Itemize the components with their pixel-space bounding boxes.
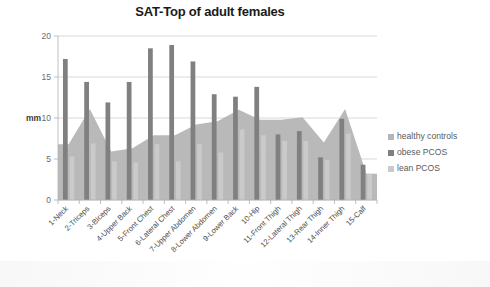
y-tick-label: 0 xyxy=(46,195,51,205)
bar-obese-pcos-6 xyxy=(191,61,196,200)
bar-lean-pcos-2 xyxy=(112,161,117,200)
bar-obese-pcos-12 xyxy=(318,157,323,200)
bar-obese-pcos-5 xyxy=(169,45,174,200)
bar-obese-pcos-7 xyxy=(212,94,217,200)
legend-label-0: healthy controls xyxy=(397,131,457,141)
bar-obese-pcos-9 xyxy=(254,87,259,200)
legend-label-2: lean PCOS xyxy=(397,163,440,173)
bar-obese-pcos-1 xyxy=(84,82,89,200)
bar-obese-pcos-4 xyxy=(148,48,153,200)
y-tick-label: 10 xyxy=(42,113,52,123)
bar-obese-pcos-10 xyxy=(276,134,281,200)
bar-obese-pcos-13 xyxy=(339,119,344,200)
y-tick-label: 15 xyxy=(42,72,52,82)
legend-label-1: obese PCOS xyxy=(397,147,447,157)
bar-lean-pcos-11 xyxy=(303,141,308,200)
chart-container: SAT-Top of adult females 051015201-Neck2… xyxy=(0,0,490,287)
chart-svg: 051015201-Neck2-Triceps3-Biceps4-Upper B… xyxy=(0,0,490,287)
legend-swatch-1 xyxy=(388,150,394,156)
legend-swatch-0 xyxy=(388,134,394,140)
bar-lean-pcos-8 xyxy=(240,129,245,200)
bar-obese-pcos-3 xyxy=(127,82,132,200)
bar-obese-pcos-14 xyxy=(361,165,366,200)
bar-lean-pcos-12 xyxy=(325,160,330,200)
bar-lean-pcos-4 xyxy=(155,144,160,200)
bar-lean-pcos-10 xyxy=(282,141,287,200)
bar-lean-pcos-13 xyxy=(346,134,351,200)
bar-obese-pcos-0 xyxy=(63,59,68,200)
chart-plot-area: 051015201-Neck2-Triceps3-Biceps4-Upper B… xyxy=(0,0,490,287)
bar-lean-pcos-14 xyxy=(367,174,372,200)
x-category-label-14: 15-Calf xyxy=(344,203,368,227)
y-tick-label: 20 xyxy=(42,31,52,41)
bar-lean-pcos-7 xyxy=(218,152,223,200)
bar-lean-pcos-1 xyxy=(91,143,96,200)
bar-lean-pcos-3 xyxy=(133,162,138,200)
bar-lean-pcos-5 xyxy=(176,161,181,200)
bar-lean-pcos-9 xyxy=(261,135,266,200)
bar-lean-pcos-0 xyxy=(70,157,75,200)
y-axis-title: mm xyxy=(26,113,42,123)
bar-obese-pcos-11 xyxy=(297,131,302,200)
y-tick-label: 5 xyxy=(46,154,51,164)
bar-obese-pcos-2 xyxy=(106,102,111,200)
bar-lean-pcos-6 xyxy=(197,144,202,200)
bar-obese-pcos-8 xyxy=(233,97,238,200)
legend-swatch-2 xyxy=(388,166,394,172)
